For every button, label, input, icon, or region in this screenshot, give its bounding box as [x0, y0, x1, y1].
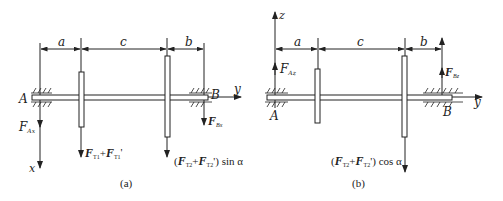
label-axis-z: z — [278, 9, 285, 22]
label-force-FAx: FAx — [18, 120, 36, 134]
label-dim-b: b — [185, 35, 193, 49]
label-axis-x: x — [29, 162, 36, 175]
label-point-B: B — [210, 88, 220, 102]
label-force-FT1: FT1+FT1' — [84, 146, 123, 160]
gear-2-b — [402, 56, 407, 137]
caption-a: (a) — [120, 177, 133, 190]
shaft — [32, 95, 208, 100]
label-dim-b-b: b — [420, 35, 428, 49]
label-force-FAz: FAz — [279, 62, 297, 76]
label-dim-c: c — [120, 35, 127, 49]
panel-a — [31, 38, 241, 168]
label-point-A: A — [18, 92, 28, 106]
label-force-FT2-sin: (FT2+FT2') sin α — [174, 154, 243, 168]
caption-b: (b) — [352, 177, 365, 190]
label-dim-a-b: a — [294, 35, 301, 49]
panel-a-labels: a c b A B y x FAx FBx FT1+FT1' (FT2+FT2'… — [18, 35, 243, 190]
label-point-A-b: A — [269, 109, 279, 123]
gear-2 — [165, 56, 170, 137]
label-dim-a: a — [58, 35, 65, 49]
label-force-FT2-cos: (FT2+FT2') cos α — [331, 154, 402, 168]
label-axis-y-b: y — [473, 95, 481, 109]
label-dim-c-b: c — [357, 35, 364, 49]
shaft-b — [267, 95, 452, 100]
label-point-B-b: B — [442, 105, 452, 119]
shaft-force-diagram: a c b A B y x FAx FBx FT1+FT1' (FT2+FT2'… — [0, 0, 503, 201]
gear-1 — [79, 72, 84, 127]
label-force-FBz: FBz — [444, 65, 460, 79]
label-axis-y: y — [233, 82, 241, 96]
label-force-FBx: FBx — [207, 114, 223, 128]
gear-1-b — [315, 69, 320, 123]
